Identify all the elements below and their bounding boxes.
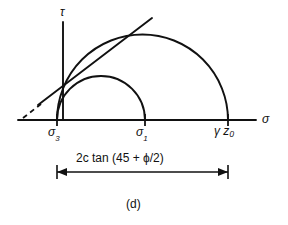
failure-envelope-dashed-extension — [23, 104, 41, 118]
dimension-label: 2c tan (45 + ϕ/2) — [76, 152, 164, 164]
figure-caption: (d) — [126, 198, 141, 210]
tau-axis-label: τ — [60, 6, 65, 18]
sigma3-label: σ3 — [48, 126, 60, 141]
mohr-circle-figure: τ σ σ3 σ1 γ z₀ 2c tan (45 + ϕ/2) (d) — [0, 0, 288, 225]
figure-drawing — [0, 0, 288, 225]
sigma1-label-subscript: 1 — [143, 134, 147, 143]
overburden-stress-label: γ z₀ — [214, 125, 234, 137]
sigma3-label-subscript: 3 — [55, 134, 59, 143]
sigma-axis-label: σ — [262, 113, 269, 125]
dimension-arrow-left — [57, 168, 67, 176]
small-mohr-circle — [57, 76, 145, 120]
sigma1-label: σ1 — [136, 126, 148, 141]
dimension-arrow-right — [218, 168, 228, 176]
